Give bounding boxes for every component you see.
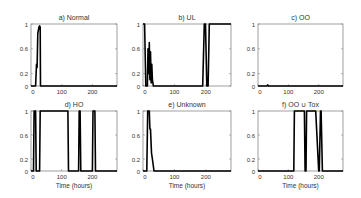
axes-box bbox=[31, 111, 117, 171]
data-series bbox=[143, 24, 231, 86]
subplot-3: 00.20.610100200c) OO bbox=[247, 14, 343, 95]
x-tick-label: 0 bbox=[143, 89, 147, 95]
x-tick-label: 100 bbox=[57, 89, 68, 95]
x-tick-label: 100 bbox=[57, 174, 68, 180]
y-tick-label: 0 bbox=[252, 169, 256, 175]
y-tick-label: 0.2 bbox=[20, 71, 29, 77]
y-tick-label: 0.2 bbox=[20, 157, 29, 163]
x-axis-label: Time (hours) bbox=[169, 182, 206, 190]
y-tick-label: 0.6 bbox=[20, 133, 29, 139]
x-tick-label: 100 bbox=[169, 174, 180, 180]
axes-box bbox=[143, 24, 231, 86]
subplot-4: 00.20.610100200d) HOTime (hours) bbox=[20, 101, 117, 190]
x-tick-label: 200 bbox=[201, 89, 212, 95]
y-tick-label: 1 bbox=[252, 22, 256, 28]
axes-box bbox=[258, 24, 343, 86]
x-tick-label: 200 bbox=[87, 89, 98, 95]
subplot-6: 00.20.610100200f) OO ∪ ToxTime (hours) bbox=[247, 101, 343, 190]
data-series bbox=[258, 85, 343, 86]
axes-box bbox=[258, 111, 343, 171]
subplot-title: c) OO bbox=[291, 14, 310, 22]
x-tick-label: 200 bbox=[201, 174, 212, 180]
x-tick-label: 0 bbox=[143, 174, 147, 180]
subplot-2: 00.20.610100200b) UL bbox=[132, 14, 231, 95]
axes-box bbox=[31, 24, 117, 86]
y-tick-label: 0.6 bbox=[20, 46, 29, 52]
x-tick-label: 0 bbox=[258, 174, 262, 180]
x-tick-label: 200 bbox=[87, 174, 98, 180]
y-tick-label: 0.6 bbox=[247, 46, 256, 52]
x-tick-label: 100 bbox=[283, 89, 294, 95]
axes-box bbox=[143, 111, 231, 171]
y-tick-label: 0.2 bbox=[247, 71, 256, 77]
x-tick-label: 200 bbox=[314, 89, 325, 95]
x-axis-label: Time (hours) bbox=[56, 182, 93, 190]
x-tick-label: 0 bbox=[31, 89, 35, 95]
y-tick-label: 0.2 bbox=[247, 157, 256, 163]
y-tick-label: 0.2 bbox=[132, 157, 141, 163]
subplot-title: b) UL bbox=[178, 14, 195, 22]
x-tick-label: 0 bbox=[258, 89, 262, 95]
subplot-title: f) OO ∪ Tox bbox=[282, 101, 319, 109]
subplot-title: e) Unknown bbox=[168, 101, 205, 109]
y-tick-label: 1 bbox=[137, 22, 141, 28]
y-tick-label: 0 bbox=[252, 84, 256, 90]
x-axis-label: Time (hours) bbox=[282, 182, 319, 190]
data-series bbox=[143, 111, 231, 171]
y-tick-label: 1 bbox=[25, 109, 29, 115]
x-tick-label: 100 bbox=[283, 174, 294, 180]
x-tick-label: 200 bbox=[314, 174, 325, 180]
data-series bbox=[258, 111, 343, 171]
y-tick-label: 1 bbox=[252, 109, 256, 115]
y-tick-label: 1 bbox=[137, 109, 141, 115]
subplot-title: a) Normal bbox=[59, 14, 90, 22]
y-tick-label: 0.6 bbox=[132, 133, 141, 139]
y-tick-label: 0.6 bbox=[247, 133, 256, 139]
y-tick-label: 0 bbox=[137, 84, 141, 90]
y-tick-label: 0.2 bbox=[132, 71, 141, 77]
x-tick-label: 100 bbox=[169, 89, 180, 95]
y-tick-label: 1 bbox=[25, 22, 29, 28]
subplot-1: 00.20.610100200a) Normal bbox=[20, 14, 117, 95]
y-tick-label: 0.6 bbox=[132, 46, 141, 52]
figure: 00.20.610100200a) Normal00.20.610100200b… bbox=[0, 0, 361, 198]
x-tick-label: 0 bbox=[31, 174, 35, 180]
data-series bbox=[31, 111, 117, 171]
subplot-5: 00.20.610100200e) UnknownTime (hours) bbox=[132, 101, 231, 190]
y-tick-label: 0 bbox=[137, 169, 141, 175]
y-tick-label: 0 bbox=[25, 169, 29, 175]
data-series bbox=[31, 26, 117, 86]
y-tick-label: 0 bbox=[25, 84, 29, 90]
subplot-title: d) HO bbox=[65, 101, 84, 109]
